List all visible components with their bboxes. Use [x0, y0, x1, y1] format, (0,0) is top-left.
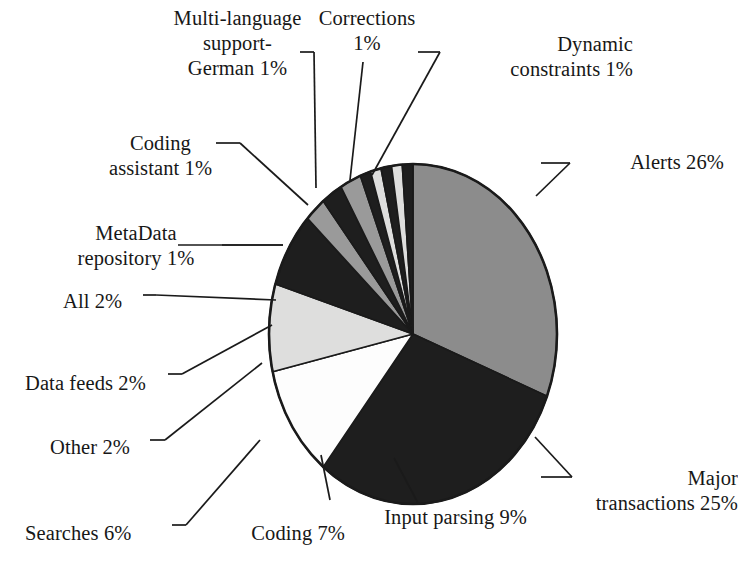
slice-label-dynamic-constraints: Dynamic constraints 1%: [443, 32, 633, 82]
leader-line: [156, 295, 276, 300]
leader-line: [535, 437, 572, 477]
slice-label-corrections: Corrections 1%: [303, 6, 431, 56]
slice-label-coding-assistant: Coding assistant 1%: [88, 131, 233, 181]
leader-line: [186, 440, 260, 525]
slice-label-other: Other 2%: [50, 435, 160, 460]
slice-label-all: All 2%: [63, 289, 143, 314]
slice-label-alerts: Alerts 26%: [574, 150, 724, 175]
pie-slices-group: [269, 164, 557, 504]
slice-label-input-parsing: Input parsing 9%: [337, 505, 527, 530]
slice-label-major-transactions: Major transactions 25%: [578, 466, 738, 516]
slice-label-coding: Coding 7%: [215, 521, 345, 546]
slice-label-searches: Searches 6%: [25, 521, 177, 546]
leader-line: [536, 163, 570, 196]
leader-line: [350, 62, 363, 180]
leader-line: [372, 52, 440, 175]
slice-label-metadata-repository: MetaData repository 1%: [56, 221, 216, 271]
slice-label-data-feeds: Data feeds 2%: [25, 371, 175, 396]
slice-label-multi-language-support: Multi-language support- German 1%: [150, 6, 325, 81]
leader-line: [240, 143, 308, 205]
